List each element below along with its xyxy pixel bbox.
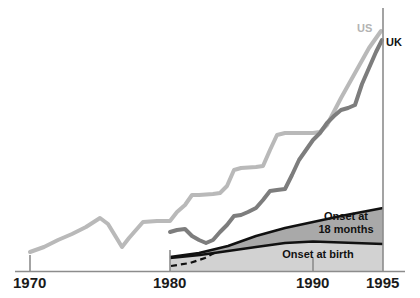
band-label-onset-18-months-line2: 18 months [307, 223, 385, 236]
series-label-us: US [357, 22, 372, 34]
band-label-onset-18-months: Onset at 18 months [307, 210, 385, 236]
band-label-onset-18-months-line1: Onset at [307, 210, 385, 223]
band-label-onset-at-birth: Onset at birth [272, 248, 364, 261]
series-label-uk: UK [386, 36, 402, 48]
x-tick-label-1970: 1970 [13, 274, 46, 291]
x-tick-label-1990: 1990 [296, 274, 329, 291]
x-tick-label-1980: 1980 [153, 274, 186, 291]
x-tick-label-1995: 1995 [366, 274, 399, 291]
chart-container: 1970 1980 1990 1995 US UK Onset at 18 mo… [0, 0, 420, 298]
